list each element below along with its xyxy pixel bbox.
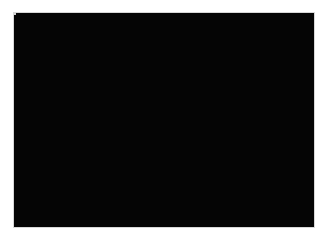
app-root: Square 1 Square 2 bbox=[0, 0, 328, 240]
canvas-frame: Square 1 Square 2 bbox=[13, 12, 315, 228]
drawing-canvas[interactable]: Square 1 Square 2 bbox=[14, 13, 314, 227]
resize-handle-bottom-right[interactable] bbox=[13, 12, 16, 15]
